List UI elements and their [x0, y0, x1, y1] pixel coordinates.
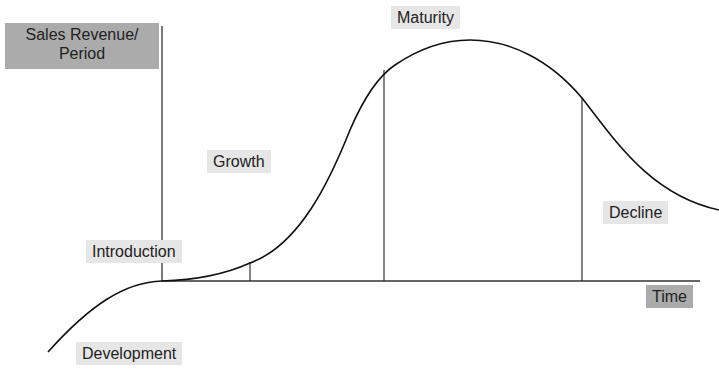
- stage-label-introduction: Introduction: [86, 240, 182, 263]
- y-axis-label: Sales Revenue/ Period: [5, 23, 159, 69]
- stage-label-growth: Growth: [207, 150, 271, 173]
- x-axis-label: Time: [646, 285, 693, 308]
- stage-label-decline: Decline: [603, 201, 668, 224]
- stage-label-maturity: Maturity: [391, 6, 460, 29]
- stage-label-development: Development: [76, 342, 182, 365]
